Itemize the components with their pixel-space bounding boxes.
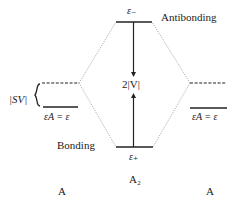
bonding-label: Bonding: [57, 140, 95, 151]
center-molecule-label: A₂: [129, 174, 141, 185]
shift-label: |SV|: [9, 94, 27, 105]
right-atom-label: A: [206, 186, 214, 197]
arrow-down-head: [131, 72, 136, 77]
right-level-label: εA = ε: [192, 112, 218, 122]
left-level-label: εA = ε: [44, 112, 70, 122]
splitting-label: 2|V|: [122, 79, 140, 90]
e-minus-label: ε₋: [127, 6, 136, 16]
arrow-up-head: [131, 93, 136, 98]
antibonding-label: Antibonding: [161, 12, 217, 23]
mo-diagram: ε₋ Antibonding 2|V| |SV| εA = ε εA = ε B…: [0, 0, 237, 204]
diagram-canvas: [0, 0, 237, 204]
curly-brace-icon: [35, 84, 40, 106]
left-atom-label: A: [58, 186, 66, 197]
e-plus-label: ε₊: [129, 152, 138, 162]
